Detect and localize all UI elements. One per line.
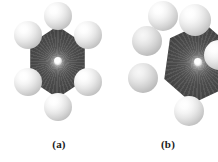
hydrogen-atom-bottom-a bbox=[44, 93, 72, 121]
hydrogen-atom-upper-left-b bbox=[132, 26, 162, 56]
hydrogen-atom-lower-left-a bbox=[14, 68, 42, 96]
hydrogen-atom-upper-right-a bbox=[74, 21, 102, 49]
hydrogen-atom-bottom-b bbox=[174, 96, 204, 126]
hydrogen-atom-top-right-b bbox=[179, 4, 211, 36]
molecular-model-figure: (a) (b) bbox=[0, 0, 218, 162]
hydrogen-atom-mid-left-b bbox=[128, 63, 158, 93]
hydrogen-atom-upper-left-a bbox=[14, 21, 42, 49]
hydrogen-atom-lower-right-a bbox=[74, 68, 102, 96]
molecule-model-b bbox=[118, 0, 218, 135]
molecule-model-a bbox=[0, 0, 118, 135]
panel-a bbox=[0, 0, 118, 135]
hydrogen-atom-top-a bbox=[44, 2, 72, 30]
panel-caption-a: (a) bbox=[0, 138, 118, 150]
panel-b bbox=[118, 0, 218, 135]
panel-caption-b: (b) bbox=[118, 138, 218, 150]
hydrogen-atom-top-left-b bbox=[148, 1, 178, 31]
